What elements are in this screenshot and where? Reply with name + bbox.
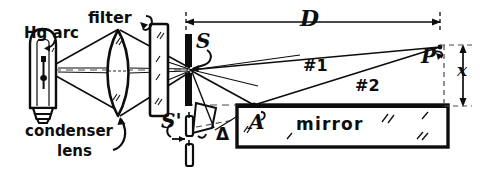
label-slit-S: S: [196, 31, 210, 51]
condenser-lens: [108, 30, 130, 116]
label-delta: Δ: [216, 126, 229, 143]
label-ray-2: #2: [355, 78, 380, 94]
label-ray-1: #1: [303, 58, 328, 74]
dimension-line-x: [440, 44, 472, 107]
label-point-A: A: [249, 112, 265, 132]
label-mirror: mirror: [296, 116, 364, 133]
optics-diagram-canvas: Hg arc filter condenser lens S S' D x #1…: [0, 0, 496, 176]
point-A-marker: [252, 103, 257, 108]
label-slit-image-S-prime: S': [161, 111, 182, 131]
label-point-P: P: [421, 46, 436, 66]
condenser-callout-arrow: [113, 117, 126, 150]
mercury-arc-lamp: [30, 29, 56, 123]
label-condenser-line2: lens: [57, 144, 92, 159]
label-height-x: x: [457, 62, 467, 79]
label-condenser-line1: condenser: [25, 124, 113, 139]
filter-callout-arrow: [140, 16, 152, 30]
label-filter: filter: [88, 10, 132, 26]
filter-plate: [150, 24, 168, 116]
label-distance-D: D: [300, 7, 319, 29]
label-hg-arc: Hg arc: [24, 26, 79, 41]
delta-wedge-shape: [193, 103, 216, 138]
